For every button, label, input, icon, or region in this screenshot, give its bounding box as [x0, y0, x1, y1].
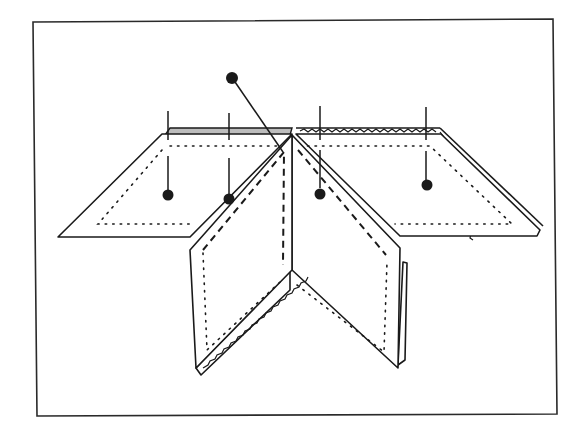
fabric-fold-diagram — [0, 0, 576, 421]
callout-dot-icon — [315, 189, 326, 200]
callout-dot-icon — [422, 180, 433, 191]
callout-dot-icon — [224, 194, 235, 205]
pin-head-icon — [226, 72, 238, 84]
callout-dot-icon — [163, 190, 174, 201]
diagram-stage: folded fabric panels (two flat wings and… — [0, 0, 576, 421]
